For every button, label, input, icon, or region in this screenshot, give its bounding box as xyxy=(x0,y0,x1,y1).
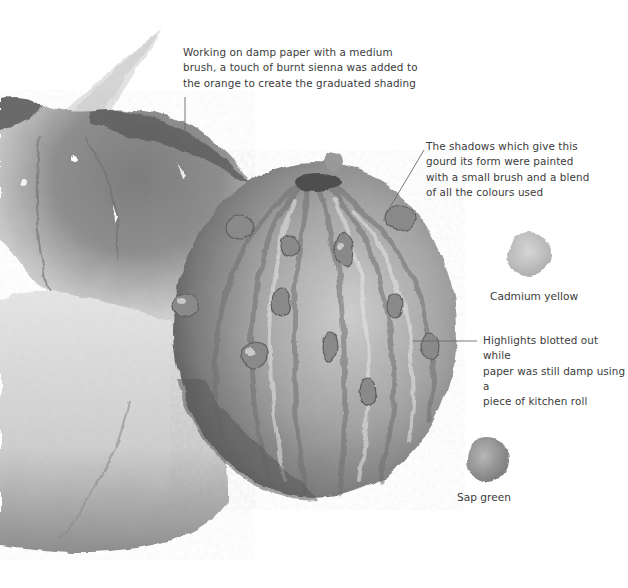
annotation-damp-paper: Working on damp paper with a medium brus… xyxy=(183,45,418,91)
annotation-shadows: The shadows which give this gourd its fo… xyxy=(426,139,589,200)
swatch-label-sap-green: Sap green xyxy=(457,491,511,503)
cadmium-yellow-swatch xyxy=(508,233,552,277)
sap-green-swatch xyxy=(466,438,510,482)
annotation-highlights: Highlights blotted out while paper was s… xyxy=(483,333,628,409)
swatch-label-cadmium-yellow: Cadmium yellow xyxy=(490,290,578,302)
